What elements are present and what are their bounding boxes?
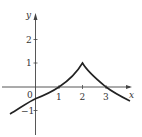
y-tick-label-2: 2 [26, 35, 32, 45]
y-axis-label: y [25, 10, 32, 20]
y-tick-label-1: 1 [26, 58, 32, 68]
x-tick-label-1: 1 [56, 92, 62, 102]
x-axis-label: x [129, 90, 134, 100]
x-tick-label-3: 3 [103, 92, 109, 102]
x-axis-arrow-icon [126, 85, 132, 89]
origin-label: 0 [27, 90, 33, 100]
y-tick-label-neg1: −1 [21, 106, 34, 116]
x-tick-label-2: 2 [80, 92, 86, 102]
chart-canvas: y x 0 1 2 3 2 1 −1 [0, 0, 142, 137]
y-axis-arrow-icon [34, 13, 38, 20]
